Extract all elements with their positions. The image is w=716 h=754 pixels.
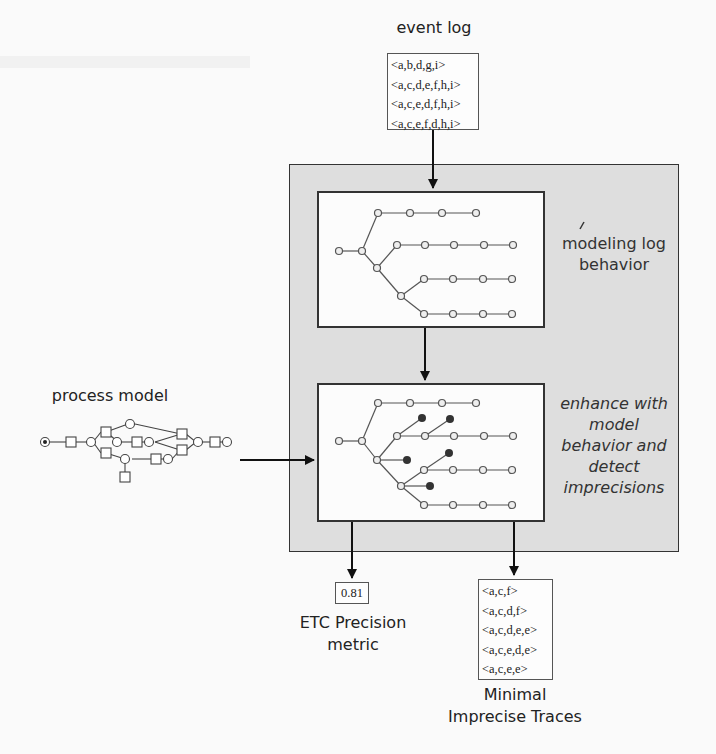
log-automaton-graph xyxy=(336,210,517,318)
petri-net xyxy=(41,420,232,483)
enhanced-automaton-graph xyxy=(336,400,517,509)
start-token xyxy=(43,440,47,444)
flow-arrows xyxy=(240,130,514,578)
diagram-graphics xyxy=(0,0,716,754)
stray-mark xyxy=(580,222,584,229)
